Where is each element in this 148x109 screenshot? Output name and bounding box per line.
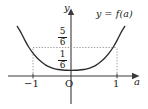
fraction-numerator: 1 — [60, 50, 66, 59]
origin-label: O — [65, 79, 73, 89]
guide-lines — [33, 48, 117, 77]
x-axis-label: a — [134, 77, 140, 87]
fraction-denominator: 6 — [60, 61, 66, 70]
y-axis-label: y — [64, 3, 70, 13]
x-tick-label-negative-one: −1 — [24, 79, 39, 89]
y-tick-label-one-sixth: 1 6 — [58, 50, 67, 71]
fraction-numerator: 5 — [60, 27, 66, 36]
fraction-denominator: 6 — [60, 38, 66, 47]
y-tick-label-five-sixths: 5 6 — [58, 27, 67, 48]
y-axis — [68, 9, 74, 105]
x-tick-label-positive-one: 1 — [113, 79, 119, 89]
graph-figure: y a y = f(a) −1 O 1 5 6 1 6 — [0, 0, 148, 109]
curve-equation-label: y = f(a) — [96, 9, 133, 19]
